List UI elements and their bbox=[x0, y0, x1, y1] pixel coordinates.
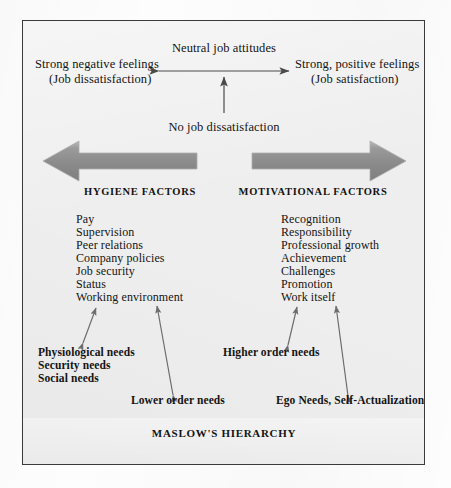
list-item: Physiological needs bbox=[38, 346, 135, 358]
ego-needs-label: Ego Needs, Self-Actualization bbox=[276, 394, 424, 406]
motivational-block-arrow bbox=[252, 141, 406, 181]
lower-order-needs-arrow bbox=[157, 306, 173, 395]
ego-needs-arrow bbox=[336, 306, 348, 396]
hygiene-factors-heading: HYGIENE FACTORS bbox=[84, 186, 196, 197]
higher-order-needs-label: Higher order needs bbox=[223, 346, 320, 358]
motivational-factors-heading: MOTIVATIONAL FACTORS bbox=[239, 186, 388, 197]
list-item: Security needs bbox=[38, 359, 111, 371]
lower-needs-to-hygiene-arrow bbox=[83, 308, 96, 343]
hygiene-block-arrow bbox=[43, 141, 197, 181]
diagram-page: Neutral job attitudes Strong negative fe… bbox=[0, 0, 451, 488]
diagram-panel: Neutral job attitudes Strong negative fe… bbox=[22, 20, 425, 465]
list-item: Working environment bbox=[76, 290, 183, 305]
lower-order-needs-label: Lower order needs bbox=[131, 394, 225, 406]
list-item: Social needs bbox=[38, 372, 99, 384]
maslow-hierarchy-footer: MASLOW'S HIERARCHY bbox=[152, 427, 296, 439]
higher-order-needs-arrow bbox=[288, 307, 297, 345]
list-item: Work itself bbox=[281, 290, 335, 305]
